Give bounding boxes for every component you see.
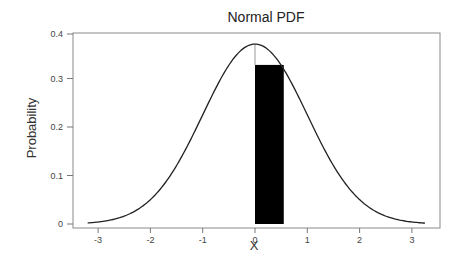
- normal-pdf-chart: Normal PDF -3-2-10123 00.10.20.30.4 X Pr…: [0, 0, 464, 271]
- x-tick-label: -3: [94, 235, 102, 245]
- highlight-bar-layer: [255, 65, 284, 224]
- y-tick-label: 0.4: [50, 29, 63, 39]
- y-axis: 00.10.20.30.4: [50, 29, 73, 229]
- y-axis-label: Probability: [24, 97, 39, 158]
- x-tick-label: -1: [199, 235, 207, 245]
- y-tick-label: 0: [58, 219, 63, 229]
- x-tick-label: 2: [357, 235, 362, 245]
- highlight-bar: [255, 65, 284, 224]
- x-tick-label: 1: [305, 235, 310, 245]
- chart-title: Normal PDF: [227, 9, 304, 25]
- x-tick-label: 3: [409, 235, 414, 245]
- x-axis-label: X: [250, 238, 259, 253]
- y-tick-label: 0.2: [50, 122, 63, 132]
- y-tick-label: 0.1: [50, 171, 63, 181]
- y-tick-label: 0.3: [50, 74, 63, 84]
- x-tick-label: -2: [146, 235, 154, 245]
